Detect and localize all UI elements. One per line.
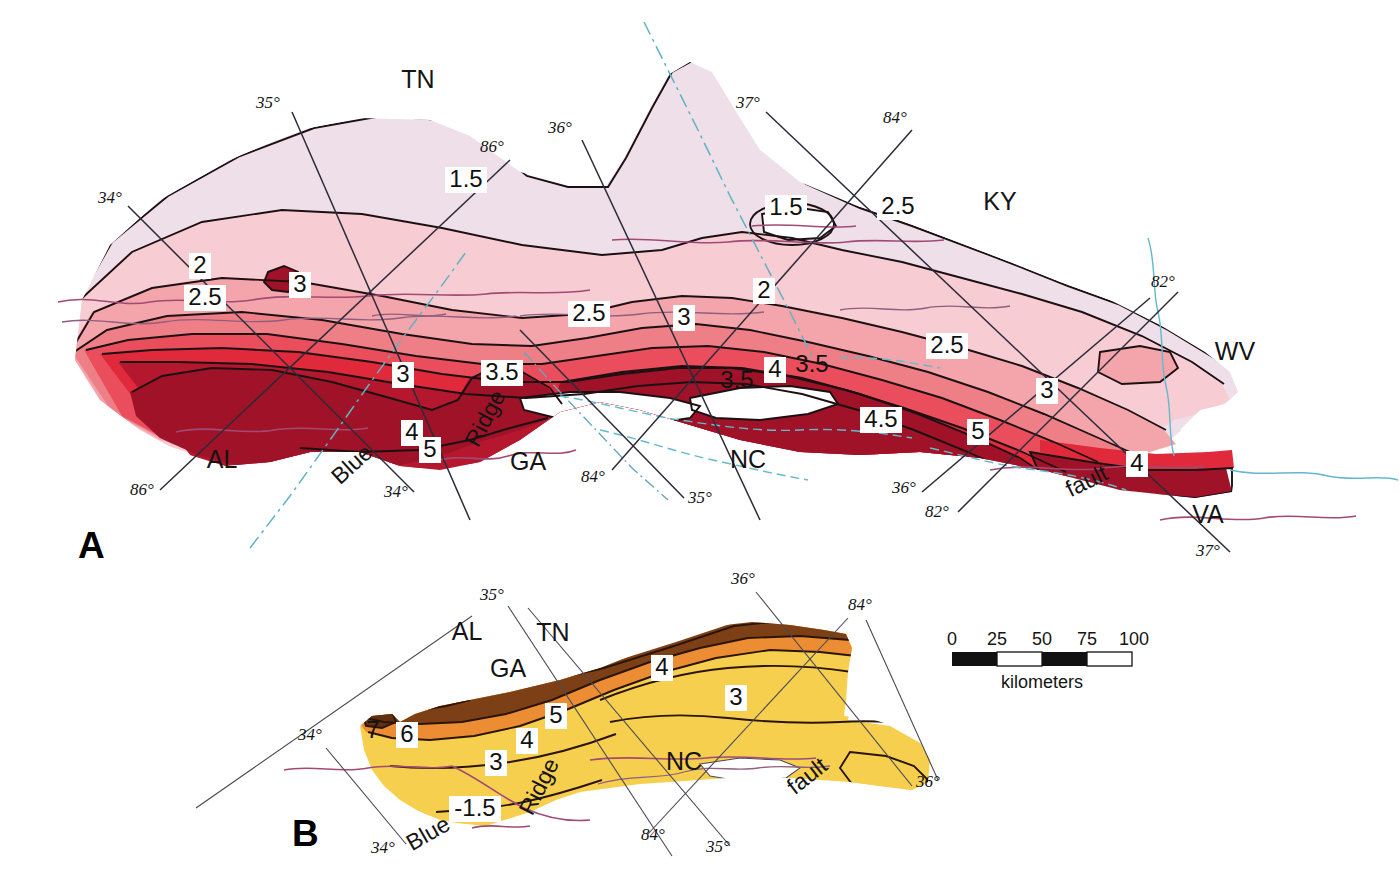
contour-label: 2.5 (568, 299, 610, 327)
degree-label-a-6: 82° (1151, 272, 1175, 291)
contour-label-text: 3 (677, 303, 690, 330)
contour-label-text: 3 (293, 270, 306, 297)
scale-segment-3 (1042, 652, 1087, 666)
degree-label-a-1: 86° (480, 137, 504, 156)
contour-label-text: 2.5 (930, 331, 963, 358)
contour-label: 4.5 (860, 405, 902, 433)
degree-label-a-2: 36° (547, 118, 572, 137)
state-label-ga-a: GA (510, 447, 546, 475)
contour-label: 2.5 (877, 192, 919, 220)
degree-label-b-5: 84° (641, 825, 665, 844)
contour-label-text: 1.5 (769, 193, 802, 220)
degree-label-a-8: 34° (383, 482, 408, 501)
contour-label: 2.5 (926, 331, 968, 359)
contour-label: 6 (396, 720, 418, 748)
contour-label-text: 3 (1040, 376, 1053, 403)
contour-label: 5 (967, 417, 989, 445)
degree-label-a-13: 37° (1195, 541, 1220, 560)
contour-label: 3.5 (481, 358, 523, 386)
contour-label: 7 (366, 716, 379, 743)
contour-label-text: 4.5 (864, 405, 897, 432)
contour-label: 5 (545, 701, 567, 729)
panel-b: AL TN GA NC Blue Ridge fault 35° 36° 84°… (196, 569, 940, 857)
contour-label-text: 5 (971, 417, 984, 444)
contour-label-text: 5 (423, 435, 436, 462)
state-label-tn-b: TN (536, 618, 569, 646)
degree-label-a-3: 37° (735, 93, 760, 112)
contour-label: 2.5 (184, 283, 226, 311)
panel-label-a: A (78, 525, 105, 566)
contour-label: 2 (753, 276, 775, 304)
contour-label-text: 2 (193, 251, 206, 278)
degree-label-a-4: 84° (883, 108, 907, 127)
contour-label-text: 4 (655, 653, 668, 680)
contour-label: 3 (485, 748, 507, 776)
figure-root: TN KY WV AL GA NC VA Blue Ridge fault 35… (0, 0, 1399, 884)
contour-label: 1.5 (445, 165, 487, 193)
scalebar: 0 25 50 75 100 kilometers (947, 629, 1149, 692)
state-label-al-b: AL (452, 617, 483, 645)
contour-label-text: 5 (549, 701, 562, 728)
state-label-tn-a: TN (401, 65, 434, 93)
scale-caption: kilometers (1001, 672, 1083, 692)
scale-segment-1 (952, 652, 997, 666)
state-label-al-a: AL (207, 445, 238, 473)
degree-label-a-11: 36° (891, 478, 916, 497)
state-label-wv-a: WV (1215, 337, 1256, 365)
contour-label-text: 3.5 (485, 358, 518, 385)
degree-label-b-7: 36° (915, 772, 940, 791)
river-b-5 (472, 826, 530, 828)
contour-label-text: 7 (366, 716, 379, 743)
contour-label: 4 (1126, 449, 1148, 477)
state-label-ky-a: KY (983, 187, 1017, 215)
contour-label: 4 (516, 726, 538, 754)
degree-label-b-0: 35° (479, 585, 504, 604)
scale-segment-4 (1087, 652, 1132, 666)
degree-label-b-3: 34° (297, 725, 322, 744)
scale-tick-50: 50 (1032, 629, 1052, 649)
river-line-9 (1160, 516, 1356, 520)
contour-label: 3 (725, 683, 747, 711)
contour-label: 5 (419, 435, 441, 463)
degree-label-a-12: 82° (925, 502, 949, 521)
contour-label-text: 4 (1130, 449, 1143, 476)
contour-label: 4 (651, 653, 673, 681)
contour-label-text: 2.5 (881, 192, 914, 219)
panel-a: TN KY WV AL GA NC VA Blue Ridge fault 35… (58, 22, 1398, 566)
contour-label: 2 (189, 251, 211, 279)
contour-label-text: 3.5 (720, 366, 753, 393)
state-label-va-a: VA (1192, 500, 1224, 528)
state-label-nc-a: NC (730, 445, 766, 473)
contour-label-text: -1.5 (454, 794, 495, 821)
state-label-ga-b: GA (490, 654, 526, 682)
degree-label-a-7: 86° (130, 480, 154, 499)
scale-tick-25: 25 (987, 629, 1007, 649)
contour-label-text: 4 (768, 355, 781, 382)
contour-label: 3 (673, 303, 695, 331)
contour-label: 3.5 (795, 350, 828, 377)
contour-label-text: 3 (396, 360, 409, 387)
contour-label: 3.5 (720, 366, 753, 393)
contour-label-text: 4 (520, 726, 533, 753)
contour-label-text: 4 (405, 418, 418, 445)
contour-label: 3 (1036, 376, 1058, 404)
degree-label-a-9: 84° (581, 467, 605, 486)
scale-segment-2 (997, 652, 1042, 666)
contour-label-text: 2.5 (188, 283, 221, 310)
degree-label-b-4: 34° (370, 838, 395, 857)
contour-label-text: 3.5 (795, 350, 828, 377)
contour-label: 1.5 (765, 193, 807, 221)
state-label-nc-b: NC (666, 747, 702, 775)
contour-label: 3 (392, 360, 414, 388)
contour-label-text: 2.5 (572, 299, 605, 326)
map-figure-svg: TN KY WV AL GA NC VA Blue Ridge fault 35… (0, 0, 1399, 884)
contour-label-text: 3 (729, 683, 742, 710)
contour-label: 4 (764, 355, 786, 383)
degree-label-a-10: 35° (687, 488, 712, 507)
contour-label-text: 2 (757, 276, 770, 303)
scale-tick-75: 75 (1077, 629, 1097, 649)
contour-label-text: 1.5 (449, 165, 482, 192)
panel-label-b: B (292, 813, 319, 854)
contour-label-text: 3 (489, 748, 502, 775)
scale-tick-0: 0 (947, 629, 957, 649)
